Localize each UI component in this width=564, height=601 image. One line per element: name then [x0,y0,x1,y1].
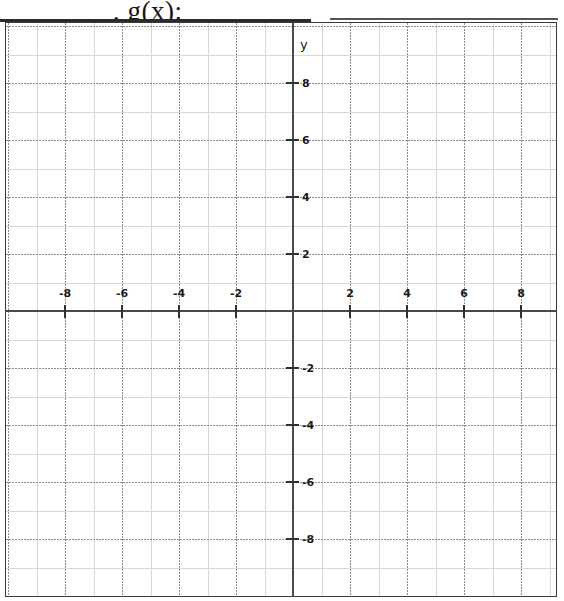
grid-line-major-h [6,539,556,540]
x-tick-label: -8 [59,287,71,300]
x-tick [463,305,465,318]
grid-line-minor-h [6,511,556,512]
x-tick [64,305,66,318]
worksheet-page: , g(x): -8-6-4-224688642-2-4-6-8xy [0,0,564,601]
grid-line-minor-h [6,55,556,56]
y-tick-label: 6 [302,134,310,147]
x-tick-label: -6 [116,287,128,300]
grid-line-major-h [6,254,556,255]
y-tick [286,253,299,255]
grid-line-minor-h [6,397,556,398]
y-tick-label: -8 [302,533,314,546]
grid-line-minor-h [6,283,556,284]
x-tick [178,305,180,318]
x-tick [235,305,237,318]
x-axis-line [6,310,556,312]
grid-line-minor-h [6,112,556,113]
y-axis-line [292,23,294,596]
x-tick [520,305,522,318]
y-axis-label: y [300,37,308,52]
y-tick [286,82,299,84]
grid-line-major-h [6,197,556,198]
x-tick [349,305,351,318]
y-tick-label: 2 [302,248,310,261]
x-tick-label: 8 [517,287,525,300]
grid-line-major-h [6,482,556,483]
x-tick [406,305,408,318]
x-tick [121,305,123,318]
grid-line-major-h [6,140,556,141]
y-tick [286,481,299,483]
x-tick-label: 4 [403,287,411,300]
x-tick-label: 6 [460,287,468,300]
header-rule-right [330,18,558,20]
grid-line-major-h [6,26,556,27]
grid-line-minor-h [6,454,556,455]
grid-line-major-h [6,368,556,369]
y-tick [286,196,299,198]
x-tick-label: -4 [173,287,185,300]
y-tick-label: -6 [302,476,314,489]
x-tick-label: -2 [230,287,242,300]
y-tick [286,367,299,369]
y-tick [286,538,299,540]
y-tick-label: 8 [302,77,310,90]
y-tick-label: -4 [302,419,314,432]
y-tick-label: -2 [302,362,314,375]
grid-line-major-h [6,596,556,597]
y-tick [286,139,299,141]
grid-line-major-h [6,83,556,84]
grid-line-minor-h [6,568,556,569]
y-tick [286,424,299,426]
grid-line-minor-h [6,226,556,227]
x-tick-label: 2 [346,287,354,300]
grid-line-major-h [6,425,556,426]
grid-line-minor-h [6,340,556,341]
coordinate-plane: -8-6-4-224688642-2-4-6-8xy [5,22,557,597]
y-tick-label: 4 [302,191,310,204]
grid-line-minor-h [6,169,556,170]
